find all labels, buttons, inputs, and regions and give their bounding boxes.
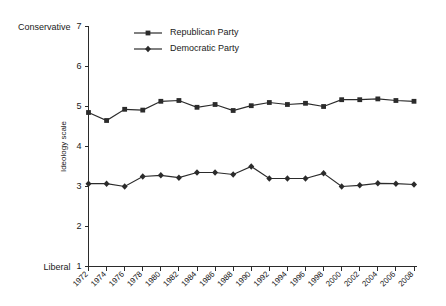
x-tick-label: 2000 xyxy=(324,269,343,288)
y-axis: 1234567 xyxy=(76,21,88,271)
data-point-marker xyxy=(411,181,417,187)
chart-legend: Republican PartyDemocratic Party xyxy=(134,27,240,53)
x-tick-label: 1990 xyxy=(234,269,253,288)
x-tick-label: 1974 xyxy=(89,269,108,288)
data-point-marker xyxy=(86,110,91,115)
x-tick-label: 1984 xyxy=(179,269,198,288)
data-point-marker xyxy=(249,103,254,108)
y-tick-label: 1 xyxy=(76,261,81,271)
data-point-marker xyxy=(339,97,344,102)
data-point-marker xyxy=(212,169,218,175)
data-point-marker xyxy=(195,105,200,110)
series-democratic xyxy=(86,163,418,189)
data-point-marker xyxy=(393,181,399,187)
x-tick-label: 1982 xyxy=(161,269,180,288)
data-point-marker xyxy=(394,98,399,103)
x-tick-label: 1992 xyxy=(252,269,271,288)
x-tick-label: 2004 xyxy=(360,269,379,288)
data-point-marker xyxy=(267,100,272,105)
data-point-marker xyxy=(194,169,200,175)
legend-item-democratic: Democratic Party xyxy=(134,43,240,53)
data-point-marker xyxy=(158,99,163,104)
data-point-marker xyxy=(303,175,309,181)
data-point-marker xyxy=(284,175,290,181)
data-point-marker xyxy=(122,183,128,189)
x-tick-label: 1994 xyxy=(270,269,289,288)
x-tick-label: 1978 xyxy=(125,269,144,288)
series-line xyxy=(89,99,415,121)
y-tick-label: 7 xyxy=(76,21,81,31)
data-point-marker xyxy=(177,98,182,103)
data-series-group xyxy=(86,97,418,190)
data-point-marker xyxy=(357,182,363,188)
chart-canvas: 1234567 19721974197619781980198219841986… xyxy=(0,0,446,306)
y-tick-label: 6 xyxy=(76,61,81,71)
data-point-marker xyxy=(140,173,146,179)
x-tick-label: 2006 xyxy=(378,269,397,288)
data-point-marker xyxy=(285,102,290,107)
legend-label: Democratic Party xyxy=(170,43,240,53)
x-axis: 1972197419761978198019821984198619881990… xyxy=(71,267,417,289)
data-point-marker xyxy=(357,97,362,102)
liberal-anchor-label: Liberal xyxy=(43,262,70,272)
data-point-marker xyxy=(213,102,218,107)
data-point-marker xyxy=(321,104,326,109)
data-point-marker xyxy=(158,172,164,178)
x-tick-label: 1998 xyxy=(306,269,325,288)
data-point-marker xyxy=(412,99,417,104)
data-point-marker xyxy=(176,175,182,181)
x-tick-label: 1976 xyxy=(107,269,126,288)
data-point-marker xyxy=(122,107,127,112)
y-tick-label: 2 xyxy=(76,221,81,231)
legend-swatch-marker xyxy=(145,46,151,52)
legend-swatch-marker xyxy=(146,31,151,36)
y-axis-title: Ideology scale xyxy=(59,120,68,172)
series-republican xyxy=(86,97,416,123)
x-tick-label: 1996 xyxy=(288,269,307,288)
data-point-marker xyxy=(140,108,145,113)
x-tick-label: 1972 xyxy=(71,269,90,288)
data-point-marker xyxy=(104,118,109,123)
data-point-marker xyxy=(86,181,92,187)
axis-labels-group: ConservativeLiberalIdeology scale xyxy=(18,22,71,272)
x-tick-label: 1980 xyxy=(143,269,162,288)
data-point-marker xyxy=(375,180,381,186)
y-tick-label: 4 xyxy=(76,141,81,151)
legend-label: Republican Party xyxy=(170,27,239,37)
data-point-marker xyxy=(231,108,236,113)
data-point-marker xyxy=(230,171,236,177)
conservative-anchor-label: Conservative xyxy=(18,22,71,32)
data-point-marker xyxy=(266,175,272,181)
x-tick-label: 2002 xyxy=(342,269,361,288)
y-tick-label: 3 xyxy=(76,181,81,191)
legend-item-republican: Republican Party xyxy=(134,27,239,37)
ideology-scale-line-chart: 1234567 19721974197619781980198219841986… xyxy=(0,0,446,306)
data-point-marker xyxy=(248,163,254,169)
data-point-marker xyxy=(375,97,380,102)
data-point-marker xyxy=(303,101,308,106)
data-point-marker xyxy=(104,181,110,187)
x-tick-label: 2008 xyxy=(396,269,415,288)
y-tick-label: 5 xyxy=(76,101,81,111)
x-tick-label: 1988 xyxy=(216,269,235,288)
x-tick-label: 1986 xyxy=(198,269,217,288)
